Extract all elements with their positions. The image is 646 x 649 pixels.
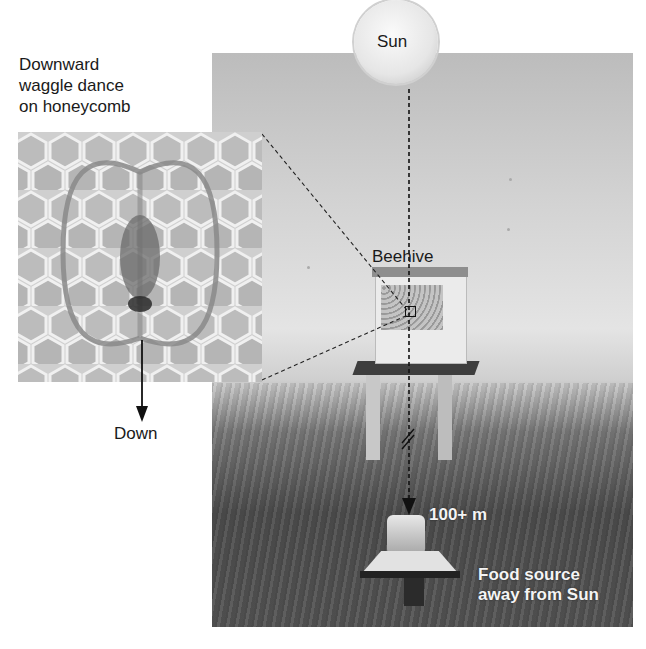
- food-source-label-line1: Food source: [478, 565, 580, 585]
- beehive-label: Beehive: [372, 247, 433, 267]
- dance-caption-line2: waggle dance: [19, 76, 124, 96]
- bee-icon: [120, 215, 160, 299]
- down-arrow-icon: [132, 340, 152, 424]
- down-label: Down: [114, 424, 157, 444]
- dance-caption-line3: on honeycomb: [19, 97, 131, 117]
- sun-icon: Sun: [354, 0, 438, 84]
- dance-caption-line1: Downward: [19, 55, 99, 75]
- food-source-label-line2: away from Sun: [478, 585, 599, 605]
- sun-label: Sun: [377, 32, 407, 52]
- distance-label: 100+ m: [429, 505, 487, 525]
- sun-direction-line: [212, 53, 633, 627]
- field-scene: 100+ m Food source away from Sun Beehive: [212, 53, 633, 627]
